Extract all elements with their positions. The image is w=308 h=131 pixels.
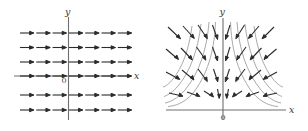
arrow-mark xyxy=(214,69,219,82)
right-plot-svg: x y 0 xyxy=(154,0,308,131)
arrow-mark xyxy=(69,46,83,49)
arrow-mark xyxy=(225,69,229,82)
arrow-mark xyxy=(225,89,228,99)
arrow-mark xyxy=(102,46,116,49)
arrow-row xyxy=(20,46,132,49)
arrow-mark xyxy=(263,93,277,96)
arrow-mark xyxy=(85,31,99,34)
arrow-mark xyxy=(226,25,231,40)
arrow-mark xyxy=(263,72,277,80)
y-axis-label: y xyxy=(219,6,226,17)
arrow-mark xyxy=(20,60,34,63)
arrow-mark xyxy=(36,46,50,49)
right-plot-panel: x y 0 xyxy=(154,0,308,131)
direction-field-figure: x y 0 xyxy=(0,0,308,131)
arrow-mark xyxy=(118,74,132,77)
arrow-mark xyxy=(20,108,34,111)
arrow-mark xyxy=(262,27,274,39)
solution-curve xyxy=(164,24,201,97)
arrow-mark xyxy=(53,46,67,49)
arrow-mark xyxy=(36,60,50,63)
solution-curve xyxy=(165,22,209,103)
arrow-mark xyxy=(20,74,34,77)
arrow-mark xyxy=(53,108,67,111)
arrow-row xyxy=(20,93,132,96)
arrow-mark xyxy=(85,93,99,96)
arrow-mark xyxy=(204,91,214,97)
arrow-row xyxy=(20,108,132,111)
left-plot-svg: x y 0 xyxy=(0,0,154,131)
arrow-mark xyxy=(118,108,132,111)
arrow-mark xyxy=(53,31,67,34)
arrow-mark xyxy=(102,74,116,77)
origin-label: 0 xyxy=(221,113,226,122)
arrow-mark xyxy=(183,26,194,39)
arrow-mark xyxy=(181,48,192,60)
arrow-mark xyxy=(69,74,83,77)
arrow-mark xyxy=(102,108,116,111)
arrow-mark xyxy=(118,60,132,63)
arrow-mark xyxy=(85,74,99,77)
arrow-mark xyxy=(20,93,34,96)
arrow-mark xyxy=(102,31,116,34)
right-arrow-field xyxy=(166,25,277,99)
arrow-mark xyxy=(85,108,99,111)
arrow-row xyxy=(20,60,132,63)
arrow-mark xyxy=(69,31,83,34)
arrow-mark xyxy=(85,60,99,63)
arrow-mark xyxy=(248,26,259,39)
arrow-mark xyxy=(213,47,219,61)
arrow-mark xyxy=(85,46,99,49)
arrow-row xyxy=(168,25,274,40)
arrow-mark xyxy=(36,108,50,111)
arrow-mark xyxy=(36,74,50,77)
arrow-row xyxy=(20,74,132,77)
arrow-mark xyxy=(166,49,179,60)
arrow-mark xyxy=(53,93,67,96)
arrow-mark xyxy=(53,60,67,63)
arrow-mark xyxy=(233,91,243,97)
arrow-mark xyxy=(118,31,132,34)
arrow-mark xyxy=(102,93,116,96)
arrow-mark xyxy=(169,93,183,96)
arrow-mark xyxy=(36,31,50,34)
x-axis-label: x xyxy=(289,104,295,115)
arrow-mark xyxy=(20,31,34,34)
arrow-mark xyxy=(118,46,132,49)
arrow-mark xyxy=(102,60,116,63)
left-arrow-field xyxy=(20,31,132,111)
left-plot-panel: x y 0 xyxy=(0,0,154,131)
arrow-mark xyxy=(118,93,132,96)
arrow-row xyxy=(20,31,132,34)
arrow-mark xyxy=(69,108,83,111)
solution-curve xyxy=(237,22,281,103)
arrow-mark xyxy=(53,74,67,77)
y-axis-label: y xyxy=(64,6,71,17)
arrow-mark xyxy=(69,60,83,63)
arrow-mark xyxy=(36,93,50,96)
arrow-mark xyxy=(20,46,34,49)
arrow-mark xyxy=(218,89,221,99)
arrow-mark xyxy=(69,93,83,96)
arrow-mark xyxy=(264,49,277,60)
arrow-mark xyxy=(226,47,231,61)
arrow-mark xyxy=(168,27,181,39)
x-axis-label: x xyxy=(134,70,140,81)
